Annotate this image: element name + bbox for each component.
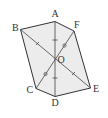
geometry-diagram: A B C D E F O [0, 0, 108, 118]
label-F: F [74, 19, 80, 30]
label-E: E [93, 83, 99, 94]
label-O: O [58, 54, 65, 65]
label-B: B [12, 22, 19, 33]
label-C: C [27, 84, 34, 95]
label-A: A [52, 8, 60, 19]
label-D: D [52, 97, 59, 108]
